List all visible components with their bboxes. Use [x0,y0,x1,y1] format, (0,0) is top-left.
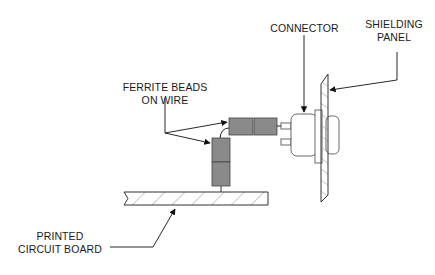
printed-circuit-board [124,192,268,205]
pcb-leader [110,209,175,247]
label-pcb-line1: PRINTED [10,230,110,243]
ferrite-beads-vertical [212,138,230,186]
connector [291,110,339,163]
label-shielding-line1: SHIELDING [358,18,430,31]
shielding-leader [330,52,397,90]
label-pcb: PRINTED CIRCUIT BOARD [10,230,110,256]
label-shielding-line2: PANEL [358,31,430,44]
shielding-panel [321,74,328,202]
label-ferrite-line2: ON WIRE [108,94,222,107]
connector-pins [281,123,291,145]
ferrite-beads-horizontal [229,118,277,135]
label-ferrite-beads: FERRITE BEADS ON WIRE [108,81,222,107]
label-pcb-line2: CIRCUIT BOARD [10,243,110,256]
label-shielding-panel: SHIELDING PANEL [358,18,430,44]
wire-bend [220,128,229,138]
label-connector: CONNECTOR [262,22,347,35]
label-ferrite-line1: FERRITE BEADS [108,81,222,94]
